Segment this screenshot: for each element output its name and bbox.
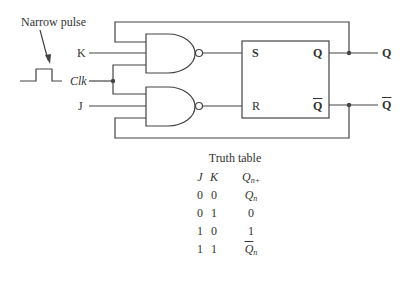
cell-q-sub: n [253, 194, 257, 203]
narrow-pulse-waveform [20, 69, 62, 81]
cell-k: 1 [209, 242, 219, 257]
sr-qbar-label: Q [313, 100, 322, 112]
nand-bubble-top [196, 50, 203, 57]
cell-q: Qn [236, 242, 266, 257]
qbar-junction-dot [347, 103, 351, 107]
cell-k: 0 [209, 188, 219, 203]
table-row: 0 1 0 [178, 206, 288, 220]
header-j: J [195, 170, 205, 185]
clk-input-label: Clk [70, 75, 87, 87]
cell-q: 1 [236, 224, 266, 239]
k-input-label: K [77, 47, 86, 59]
j-input-label: J [78, 100, 83, 112]
cell-j: 1 [195, 224, 205, 239]
cell-q-sub: n [253, 248, 257, 257]
table-row: 1 0 1 [178, 224, 288, 238]
header-q: Qn+ [236, 170, 266, 185]
nand-gate-top [146, 34, 195, 73]
cell-j: 0 [195, 206, 205, 221]
nand-bubble-bottom [196, 103, 203, 110]
q-junction-dot [347, 51, 351, 55]
nand-gate-bottom [146, 87, 195, 126]
table-row: 0 0 Qn [178, 188, 288, 202]
sr-r-label: R [252, 100, 260, 112]
header-q-base: Q [242, 170, 251, 184]
q-output-label: Q [382, 47, 391, 59]
clk-branch-wire [113, 65, 146, 94]
cell-j: 0 [195, 188, 205, 203]
cell-q: Qn [236, 188, 266, 203]
cell-q: 0 [236, 206, 266, 221]
truth-table-title: Truth table [178, 151, 290, 166]
clk-junction-dot [111, 79, 115, 83]
qbar-output-label: Q [382, 99, 391, 111]
sr-s-label: S [252, 47, 259, 59]
cell-k: 1 [209, 206, 219, 221]
header-q-sub: n+ [251, 176, 260, 185]
cell-j: 1 [195, 242, 205, 257]
table-row: 1 1 Qn [178, 242, 288, 256]
narrow-pulse-label: Narrow pulse [21, 16, 86, 28]
cell-k: 0 [209, 224, 219, 239]
truth-table-header: J K Qn+ [178, 170, 288, 184]
header-k: K [209, 170, 219, 185]
sr-q-label: Q [313, 47, 322, 59]
arrow-head-icon [45, 54, 51, 64]
